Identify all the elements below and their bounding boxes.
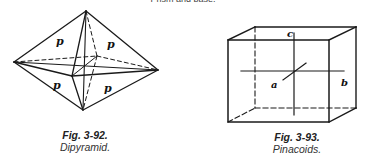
figure-title: Pinacoids. bbox=[237, 143, 357, 155]
figure-title: Dipyramid. bbox=[25, 141, 145, 153]
figure-caption-3-93: Fig. 3-93. Pinacoids. bbox=[237, 131, 357, 155]
pinacoid-box-diagram bbox=[228, 27, 356, 122]
face-label-p-lower-left: p bbox=[53, 79, 61, 92]
face-label-p-upper-right: p bbox=[107, 38, 115, 51]
axis-label-c: c bbox=[287, 28, 293, 39]
figure-number: Fig. 3-93. bbox=[237, 131, 357, 143]
figure-caption-3-92: Fig. 3-92. Dipyramid. bbox=[25, 129, 145, 153]
figure-number: Fig. 3-92. bbox=[25, 129, 145, 141]
face-label-p-upper-left: p bbox=[56, 35, 64, 48]
dipyramid-diagram bbox=[14, 11, 158, 110]
face-label-p-lower-right: p bbox=[104, 82, 112, 95]
axis-label-b: b bbox=[341, 77, 348, 88]
axis-label-a: a bbox=[271, 79, 277, 90]
